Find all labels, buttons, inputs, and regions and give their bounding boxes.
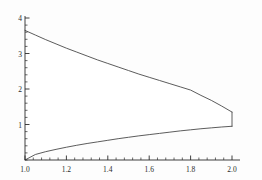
- x-axis-tick-label: 1.2: [62, 165, 71, 174]
- y-axis-tick-label: 3: [13, 49, 22, 58]
- x-axis-tick-label: 2.0: [227, 165, 236, 174]
- x-axis-tick-label: 1.0: [20, 165, 29, 174]
- y-axis-tick-label: 4: [13, 14, 22, 23]
- y-axis-tick-label: 1: [13, 120, 22, 129]
- y-axis-tick-label: 2: [13, 85, 22, 94]
- x-axis-tick-label: 1.8: [186, 165, 195, 174]
- chart-figure: 1.01.21.41.61.82.01234: [0, 0, 262, 180]
- x-axis-tick-label: 1.6: [145, 165, 154, 174]
- plot-area: [0, 0, 262, 180]
- x-axis-tick-label: 1.4: [103, 165, 112, 174]
